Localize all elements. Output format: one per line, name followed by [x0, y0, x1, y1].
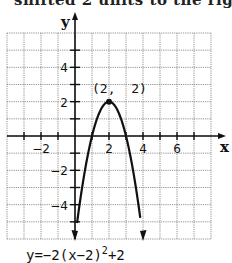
x-axis-label: x	[220, 138, 230, 156]
svg-text:4: 4	[139, 142, 147, 156]
axes	[7, 12, 226, 239]
vertex-point	[106, 99, 112, 105]
equation-suffix: +2	[108, 247, 125, 263]
y-axis-label: y	[60, 13, 71, 31]
equation-label: y=−2(x−2)2+2	[26, 245, 125, 263]
equation-main: y=−2(x−2)	[26, 247, 102, 263]
svg-text:6: 6	[173, 142, 181, 156]
vertex-label: (2, 2)	[92, 81, 147, 96]
svg-text:2: 2	[105, 142, 113, 156]
svg-text:−4: −4	[50, 199, 68, 213]
svg-text:2: 2	[60, 96, 68, 110]
svg-text:−2: −2	[50, 164, 68, 178]
svg-text:4: 4	[60, 61, 68, 75]
svg-text:−2: −2	[32, 142, 50, 156]
